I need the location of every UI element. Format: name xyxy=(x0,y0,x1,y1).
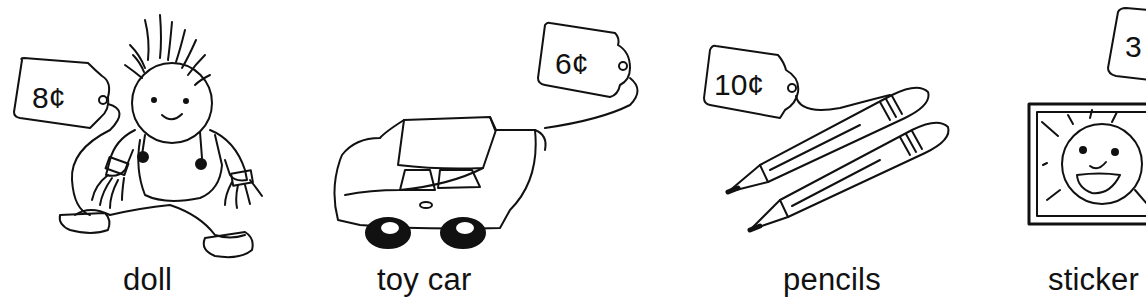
sticker-price: 3 xyxy=(1125,30,1142,63)
item-doll: 8¢ doll xyxy=(0,0,300,305)
item-sticker: 3 sticker xyxy=(980,0,1146,305)
pencil-icon xyxy=(728,88,929,192)
car-price: 6¢ xyxy=(555,47,588,80)
sticker-illustration: 3 xyxy=(980,0,1146,305)
item-label-toy-car: toy car xyxy=(377,262,471,298)
doll-illustration: 8¢ xyxy=(0,0,300,305)
doll-price: 8¢ xyxy=(32,81,65,114)
item-label-doll: doll xyxy=(123,262,172,298)
pencils-price: 10¢ xyxy=(714,68,764,101)
item-label-sticker: sticker xyxy=(1048,262,1139,298)
toy-car-illustration: 6¢ xyxy=(300,0,650,305)
pencils-illustration: 10¢ xyxy=(680,0,980,305)
item-label-pencils: pencils xyxy=(783,262,881,298)
item-pencils: 10¢ pencils xyxy=(680,0,980,305)
item-toy-car: 6¢ toy car xyxy=(300,0,650,305)
